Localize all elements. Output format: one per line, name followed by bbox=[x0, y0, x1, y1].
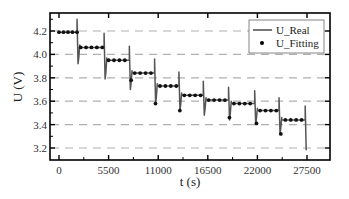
u-fitting-point bbox=[300, 118, 304, 122]
u-fitting-point bbox=[232, 102, 236, 106]
y-tick-label: 3.8 bbox=[33, 72, 47, 84]
u-fitting-point bbox=[178, 109, 182, 113]
u-fitting-point bbox=[118, 58, 122, 62]
u-fitting-point bbox=[144, 71, 148, 75]
u-fitting-point bbox=[283, 118, 287, 122]
legend: U_Real U_Fitting bbox=[249, 20, 324, 53]
x-tick-label: 0 bbox=[56, 164, 62, 176]
u-fitting-point bbox=[269, 109, 273, 113]
u-fitting-point bbox=[264, 109, 268, 113]
x-tick-label: 22000 bbox=[244, 164, 272, 176]
u-fitting-point bbox=[174, 84, 178, 88]
u-fitting-point bbox=[79, 45, 83, 49]
u-fitting-point bbox=[66, 30, 70, 34]
u-fitting-point bbox=[255, 122, 259, 126]
u-fitting-point bbox=[193, 93, 197, 97]
u-fitting-point bbox=[188, 93, 192, 97]
u-fitting-point bbox=[248, 102, 252, 106]
y-tick-label: 4.0 bbox=[33, 48, 47, 60]
u-fitting-point bbox=[279, 132, 283, 136]
x-tick-label: 11000 bbox=[145, 164, 173, 176]
u-fitting-point bbox=[212, 98, 216, 102]
u-fitting-point bbox=[154, 102, 158, 106]
u-fitting-point bbox=[223, 98, 227, 102]
y-tick-label: 3.4 bbox=[33, 119, 47, 131]
x-tick-label: 27500 bbox=[293, 164, 321, 176]
u-fitting-point bbox=[90, 45, 94, 49]
u-fitting-point bbox=[123, 58, 127, 62]
u-fitting-point bbox=[207, 98, 211, 102]
x-axis-title: t (s) bbox=[180, 174, 201, 189]
u-fitting-point bbox=[95, 45, 99, 49]
u-fitting-point bbox=[228, 116, 232, 120]
x-tick-label: 5500 bbox=[98, 164, 121, 176]
y-tick-label: 3.6 bbox=[33, 95, 47, 107]
u-fitting-point bbox=[62, 30, 66, 34]
u-fitting-point bbox=[258, 109, 262, 113]
u-fitting-point bbox=[289, 118, 293, 122]
legend-label-u-real: U_Real bbox=[276, 24, 310, 36]
u-fitting-point bbox=[57, 30, 61, 34]
u-fitting-point bbox=[133, 71, 137, 75]
u-fitting-point bbox=[182, 93, 186, 97]
u-fitting-point bbox=[84, 45, 88, 49]
u-fitting-point bbox=[218, 98, 222, 102]
u-fitting-point bbox=[149, 71, 153, 75]
u-fitting-point bbox=[107, 58, 111, 62]
u-fitting-point bbox=[243, 102, 247, 106]
u-fitting-point bbox=[158, 84, 162, 88]
u-fitting-point bbox=[294, 118, 298, 122]
y-axis-title: U (V) bbox=[10, 72, 25, 103]
y-tick-label: 3.2 bbox=[33, 142, 47, 154]
y-tick-label: 4.2 bbox=[33, 25, 47, 37]
u-fitting-point bbox=[274, 109, 278, 113]
u-fitting-point bbox=[199, 93, 203, 97]
legend-label-u-fitting: U_Fitting bbox=[276, 37, 319, 49]
u-fitting-point bbox=[75, 30, 79, 34]
u-fitting-point bbox=[138, 71, 142, 75]
u-fitting-point bbox=[164, 84, 168, 88]
u-fitting-point bbox=[129, 78, 133, 82]
chart: 0550011000165002200027500 3.23.43.63.84.… bbox=[0, 0, 349, 199]
u-fitting-point bbox=[237, 102, 241, 106]
u-fitting-point bbox=[112, 58, 116, 62]
legend-dot-icon bbox=[260, 41, 264, 45]
u-fitting-point bbox=[100, 45, 104, 49]
u-fitting-point bbox=[169, 84, 173, 88]
u-fitting-point bbox=[71, 30, 75, 34]
